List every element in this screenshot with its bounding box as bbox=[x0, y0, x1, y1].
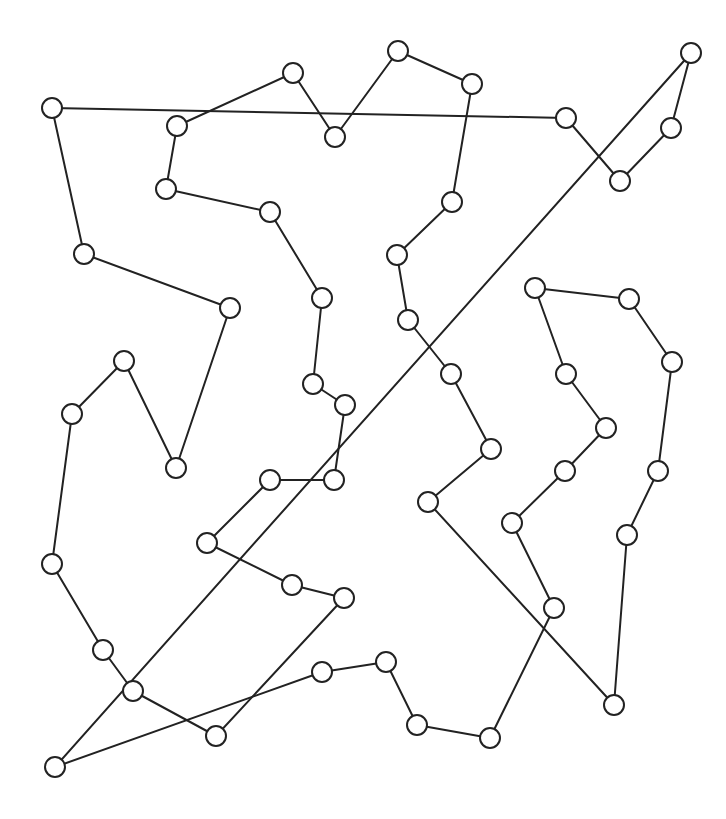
graph-node bbox=[556, 364, 576, 384]
graph-node bbox=[662, 352, 682, 372]
graph-node bbox=[398, 310, 418, 330]
edge bbox=[124, 361, 176, 468]
edge bbox=[72, 361, 124, 414]
graph-node bbox=[167, 116, 187, 136]
graph-node bbox=[442, 192, 462, 212]
graph-node bbox=[376, 652, 396, 672]
edge bbox=[55, 672, 322, 767]
graph-node bbox=[93, 640, 113, 660]
edge bbox=[176, 308, 230, 468]
graph-node bbox=[681, 43, 701, 63]
graph-node bbox=[334, 588, 354, 608]
graph-node bbox=[525, 278, 545, 298]
graph-node bbox=[407, 715, 427, 735]
edge bbox=[451, 374, 491, 449]
graph-node bbox=[62, 404, 82, 424]
edge bbox=[535, 288, 566, 374]
graph-node bbox=[123, 681, 143, 701]
graph-canvas bbox=[0, 0, 726, 819]
graph-node bbox=[544, 598, 564, 618]
edge bbox=[490, 608, 554, 738]
edge bbox=[166, 189, 270, 212]
edge bbox=[452, 84, 472, 202]
graph-node bbox=[303, 374, 323, 394]
edge bbox=[629, 299, 672, 362]
graph-node bbox=[555, 461, 575, 481]
graph-node bbox=[260, 202, 280, 222]
edge bbox=[52, 564, 103, 650]
graph-node bbox=[556, 108, 576, 128]
graph-node bbox=[387, 245, 407, 265]
edge-layer bbox=[52, 51, 691, 767]
graph-node bbox=[480, 728, 500, 748]
edge bbox=[566, 118, 620, 181]
graph-node bbox=[74, 244, 94, 264]
graph-node bbox=[220, 298, 240, 318]
graph-node bbox=[206, 726, 226, 746]
edge bbox=[397, 202, 452, 255]
graph-node bbox=[388, 41, 408, 61]
graph-node bbox=[619, 289, 639, 309]
edge bbox=[428, 449, 491, 502]
tour-diagram bbox=[0, 0, 726, 819]
graph-node bbox=[45, 757, 65, 777]
graph-node bbox=[283, 63, 303, 83]
graph-node bbox=[335, 395, 355, 415]
edge bbox=[313, 298, 322, 384]
edge bbox=[658, 362, 672, 471]
edge bbox=[512, 471, 565, 523]
edge bbox=[620, 128, 671, 181]
edge bbox=[512, 523, 554, 608]
edge bbox=[417, 725, 490, 738]
graph-node bbox=[325, 127, 345, 147]
graph-node bbox=[260, 470, 280, 490]
edge bbox=[207, 480, 270, 543]
graph-node bbox=[324, 470, 344, 490]
graph-node bbox=[610, 171, 630, 191]
edge bbox=[398, 51, 472, 84]
edge bbox=[52, 414, 72, 564]
graph-node bbox=[282, 575, 302, 595]
graph-node bbox=[462, 74, 482, 94]
graph-node bbox=[617, 525, 637, 545]
graph-node bbox=[42, 554, 62, 574]
graph-node bbox=[197, 533, 217, 553]
edge bbox=[177, 73, 293, 126]
graph-node bbox=[114, 351, 134, 371]
edge bbox=[535, 288, 629, 299]
edge bbox=[270, 212, 322, 298]
graph-node bbox=[166, 458, 186, 478]
edge bbox=[52, 108, 566, 118]
graph-node bbox=[441, 364, 461, 384]
graph-node bbox=[42, 98, 62, 118]
graph-node bbox=[481, 439, 501, 459]
graph-node bbox=[502, 513, 522, 533]
edge bbox=[614, 535, 627, 705]
graph-node bbox=[156, 179, 176, 199]
graph-node bbox=[661, 118, 681, 138]
graph-node bbox=[418, 492, 438, 512]
graph-node bbox=[312, 662, 332, 682]
edge bbox=[55, 53, 691, 767]
edge bbox=[52, 108, 84, 254]
graph-node bbox=[604, 695, 624, 715]
edge bbox=[335, 51, 398, 137]
graph-node bbox=[596, 418, 616, 438]
edge bbox=[84, 254, 230, 308]
graph-node bbox=[648, 461, 668, 481]
edge bbox=[293, 73, 335, 137]
graph-node bbox=[312, 288, 332, 308]
